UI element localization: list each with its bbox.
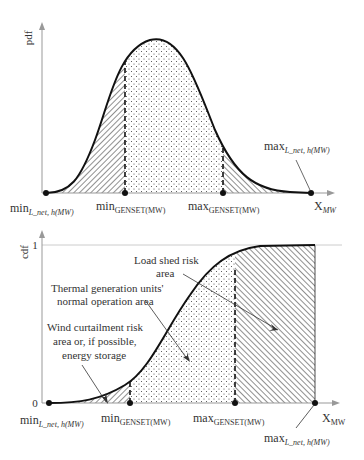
pdf-min-genset-label: minGENSET(MW) bbox=[96, 199, 166, 215]
cdf-min-l-net-point bbox=[46, 400, 52, 406]
pdf-max-l-net-label: maxL_net, h(MW) bbox=[264, 139, 330, 155]
cdf-x-axis-label: XMW bbox=[322, 411, 346, 427]
cdf-max-l-net-point bbox=[312, 400, 318, 406]
pdf-y-axis-label: pdf bbox=[22, 30, 34, 45]
cdf-chart: cdf 1 0 Load shed risk area Thermal gene… bbox=[18, 230, 346, 447]
pdf-chart: pdf minL_net, h(MW) minGENSET(MW) maxGEN… bbox=[10, 20, 337, 217]
pdf-wind-curtailment-region bbox=[46, 20, 125, 195]
cdf-min-l-net-label: minL_net, h(MW) bbox=[20, 413, 84, 429]
pdf-min-genset-point bbox=[122, 190, 128, 196]
pdf-max-genset-label: maxGENSET(MW) bbox=[188, 199, 260, 215]
pdf-max-genset-point bbox=[220, 190, 226, 196]
pdf-x-axis-arrow-icon bbox=[327, 190, 335, 196]
wind-annotation: Wind curtailment risk area or, if possib… bbox=[47, 321, 146, 361]
cdf-min-genset-point bbox=[127, 400, 133, 406]
cdf-load-shed-region bbox=[235, 240, 315, 405]
pdf-x-axis-label: XMW bbox=[314, 199, 337, 215]
pdf-cdf-diagram: pdf minL_net, h(MW) minGENSET(MW) maxGEN… bbox=[0, 0, 364, 460]
cdf-min-genset-label: minGENSET(MW) bbox=[101, 411, 171, 427]
pdf-max-l-net-leader bbox=[296, 160, 310, 190]
cdf-max-l-net-leader bbox=[296, 405, 314, 428]
pdf-shaded-regions bbox=[46, 20, 313, 195]
cdf-max-genset-point bbox=[232, 400, 238, 406]
cdf-y-tick-0: 0 bbox=[32, 397, 38, 409]
wind-leader bbox=[82, 365, 106, 402]
pdf-min-l-net-point bbox=[43, 190, 49, 196]
pdf-min-l-net-label: minL_net, h(MW) bbox=[10, 201, 74, 217]
pdf-load-shed-region bbox=[223, 20, 313, 195]
cdf-max-genset-label: maxGENSET(MW) bbox=[193, 411, 265, 427]
cdf-x-axis-arrow-icon bbox=[332, 400, 340, 406]
cdf-max-l-net-label: maxL_net, h(MW) bbox=[264, 431, 330, 447]
pdf-max-l-net-point bbox=[308, 190, 314, 196]
cdf-y-axis-arrow-icon bbox=[39, 230, 45, 238]
load-shed-annotation: Load shed risk area bbox=[134, 254, 202, 279]
thermal-annotation: Thermal generation units' normal operati… bbox=[51, 282, 166, 307]
cdf-y-tick-1: 1 bbox=[32, 239, 38, 251]
pdf-y-axis-arrow-icon bbox=[39, 22, 45, 30]
cdf-y-axis-label: cdf bbox=[18, 245, 30, 259]
